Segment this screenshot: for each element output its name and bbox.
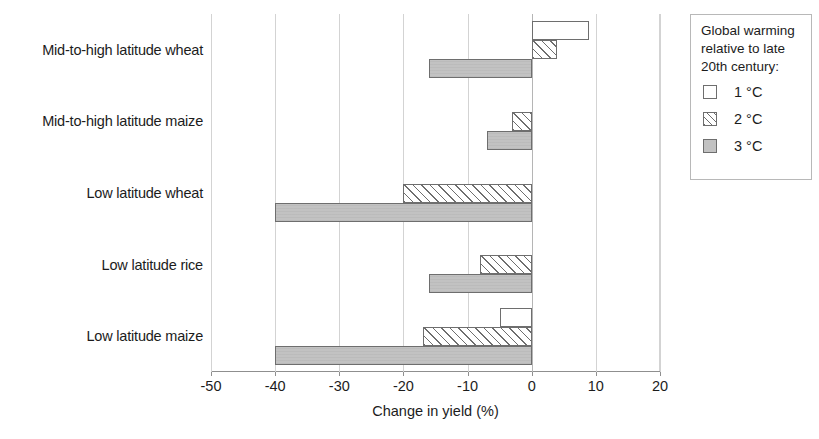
category-label: Mid-to-high latitude wheat [0,42,203,58]
legend-swatch-icon [703,139,717,153]
x-tick-label: -10 [457,378,478,394]
bar [275,346,532,365]
bar [487,131,532,150]
legend-swatch-icon [703,112,717,126]
legend-label: 3 °C [734,138,762,154]
category-label: Low latitude rice [0,257,203,273]
legend-swatch-icon [703,85,717,99]
x-tick-label: -20 [393,378,414,394]
legend-title-line: Global warming [701,22,809,40]
gridline--40 [275,14,276,372]
bar [532,40,558,59]
bar [512,112,531,131]
x-tick-mark [596,372,597,376]
x-tick-mark [339,372,340,376]
x-tick-mark [532,372,533,376]
legend-item-1: 1 °C [703,81,807,103]
legend-title-line: 20th century: [701,58,809,76]
x-tick-label: -40 [265,378,286,394]
gridline-10 [596,14,597,372]
x-axis-title: Change in yield (%) [211,403,660,419]
x-axis-line [211,371,660,372]
bar [429,59,532,78]
legend-label: 2 °C [734,111,762,127]
legend-title: Global warmingrelative to late20th centu… [701,22,809,76]
category-axis-labels: Mid-to-high latitude wheatMid-to-high la… [0,0,203,380]
x-tick-mark [660,372,661,376]
legend-item-2: 2 °C [703,108,807,130]
bar [275,203,532,222]
bar [403,184,531,203]
category-label: Low latitude wheat [0,185,203,201]
x-tick-label: 10 [588,378,604,394]
yield-change-bar-chart: Mid-to-high latitude wheatMid-to-high la… [0,0,819,439]
legend: Global warmingrelative to late20th centu… [690,14,812,180]
legend-label: 1 °C [734,84,762,100]
x-tick-mark [211,372,212,376]
gridline--30 [339,14,340,372]
gridline--50 [211,14,212,372]
x-tick-mark [468,372,469,376]
bar [480,255,531,274]
x-tick-mark [275,372,276,376]
legend-title-line: relative to late [701,40,809,58]
bar [423,327,532,346]
bar [429,274,532,293]
category-label: Mid-to-high latitude maize [0,113,203,129]
plot-area [211,14,660,372]
x-tick-mark [403,372,404,376]
bar [532,21,590,40]
bar [500,308,532,327]
x-tick-label: 0 [528,378,536,394]
gridline-20 [660,14,661,372]
gridline-0 [532,14,533,372]
category-label: Low latitude maize [0,328,203,344]
legend-item-3: 3 °C [703,135,807,157]
x-tick-label: -30 [329,378,350,394]
x-tick-label: -50 [201,378,222,394]
x-tick-label: 20 [652,378,668,394]
